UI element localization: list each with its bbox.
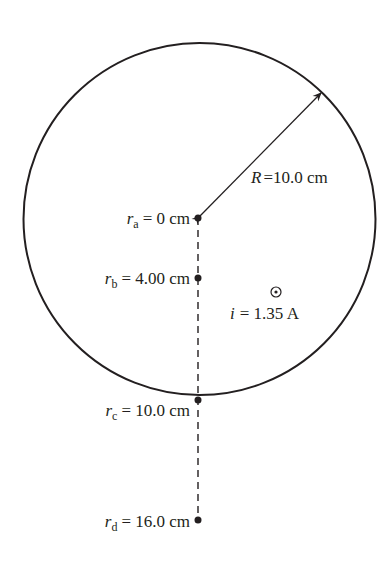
- point-b-dot: [195, 275, 202, 282]
- radius-label: R=10.0 cm: [250, 168, 328, 187]
- current-label: i= 1.35 A: [230, 304, 300, 323]
- wire-diagram: R=10.0 cm ra= 0 cm rb= 4.00 cm rc= 10.0 …: [0, 0, 391, 570]
- point-a-dot: [195, 215, 202, 222]
- point-c-dot: [195, 397, 202, 404]
- point-c-label: rc= 10.0 cm: [105, 401, 190, 423]
- out-of-page-dot-icon: [271, 287, 281, 297]
- point-b-label: rb= 4.00 cm: [105, 269, 190, 291]
- point-d-dot: [195, 517, 202, 524]
- point-a-label: ra= 0 cm: [127, 209, 190, 231]
- radius-arrow: [200, 93, 321, 216]
- point-d-label: rd= 16.0 cm: [105, 512, 190, 534]
